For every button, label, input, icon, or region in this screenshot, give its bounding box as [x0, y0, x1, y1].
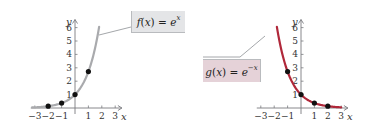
- x-tick-label: −2: [268, 111, 281, 121]
- data-point: [325, 104, 330, 109]
- label-f-of-x: f(x) = ex: [131, 11, 185, 33]
- label-g-of-x: g(x) = e−x: [203, 59, 261, 82]
- y-tick-label: 4: [292, 49, 298, 59]
- function-name: f: [137, 16, 141, 28]
- data-point: [285, 69, 290, 74]
- function-exponent: −x: [248, 64, 258, 72]
- x-axis-label: x: [121, 111, 127, 122]
- x-tick-label: −3: [254, 111, 268, 121]
- x-tick-label: 3: [338, 111, 344, 121]
- label-leader-line: [203, 36, 265, 57]
- y-tick-label: 2: [66, 76, 72, 86]
- function-exponent: x: [176, 14, 180, 22]
- data-point: [72, 92, 77, 97]
- y-tick-label: 5: [66, 36, 72, 46]
- data-point: [312, 100, 317, 105]
- label-leader-line: [99, 27, 131, 35]
- x-tick-label: −3: [28, 111, 42, 121]
- x-tick-label: 2: [99, 111, 105, 121]
- y-tick-label: 3: [292, 63, 298, 73]
- exponential-graphs: −3−2−1123123456xy −3−2−1123123456xy: [0, 0, 376, 129]
- y-tick-label: 5: [292, 36, 298, 46]
- x-tick-label: 2: [325, 111, 331, 121]
- y-axis-label: y: [291, 16, 298, 27]
- y-tick-label: 3: [66, 63, 72, 73]
- x-tick-label: −1: [55, 111, 68, 121]
- x-axis-label: x: [347, 111, 353, 122]
- function-variable: x: [216, 65, 222, 77]
- y-tick-label: 4: [66, 49, 72, 59]
- x-tick-label: 1: [86, 111, 92, 121]
- function-base: e: [242, 65, 248, 77]
- function-name: g: [205, 65, 212, 77]
- data-point: [46, 104, 51, 109]
- data-point: [59, 100, 64, 105]
- function-variable: x: [145, 16, 151, 28]
- data-point: [86, 69, 91, 74]
- data-point: [298, 92, 303, 97]
- y-axis-label: y: [65, 16, 72, 27]
- x-tick-label: −1: [281, 111, 294, 121]
- x-tick-label: −2: [42, 111, 55, 121]
- x-tick-label: 1: [312, 111, 318, 121]
- function-curve: [277, 27, 341, 107]
- x-tick-label: 3: [112, 111, 118, 121]
- graph-f: −3−2−1123123456xy: [28, 16, 131, 122]
